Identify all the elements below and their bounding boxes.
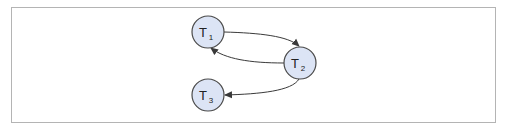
node-t2-subscript: 2	[301, 64, 306, 73]
node-t1-subscript: 1	[209, 33, 214, 42]
transaction-graph: T 1 T 2 T 3	[0, 0, 510, 128]
node-t3-subscript: 3	[209, 96, 214, 105]
node-t3-label: T	[199, 88, 207, 103]
node-t1-circle	[192, 16, 224, 48]
node-t2-label: T	[291, 56, 299, 71]
node-t2[interactable]: T 2	[284, 47, 316, 79]
node-t3-circle	[192, 79, 224, 111]
edge-t1-to-t2	[224, 32, 299, 46]
node-t2-circle	[284, 47, 316, 79]
edge-t2-to-t1	[211, 48, 284, 63]
edge-t2-to-t3	[225, 79, 299, 95]
node-t3[interactable]: T 3	[192, 79, 224, 111]
node-t1[interactable]: T 1	[192, 16, 224, 48]
node-t1-label: T	[199, 25, 207, 40]
